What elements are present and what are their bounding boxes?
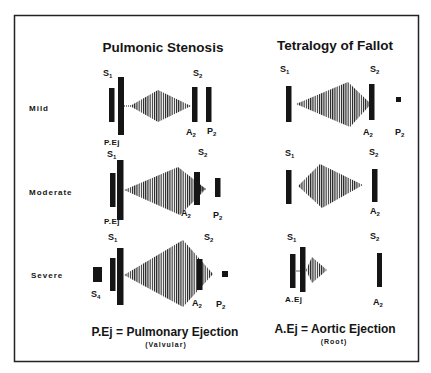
mild-pulmonic-stenosis: S1 S2 P.Ej A2 P2: [103, 68, 217, 147]
a2-bar: [194, 172, 200, 205]
title-tetralogy-of-fallot: Tetralogy of Fallot: [277, 38, 394, 53]
phonocardiogram-diagram: Pulmonic Stenosis Tetralogy of Fallot Mi…: [0, 0, 431, 373]
severe-pulmonic-stenosis: S1 S2 S4 A2 P2: [91, 232, 228, 310]
svg-text:S1: S1: [107, 149, 117, 160]
legend: P.Ej = Pulmonary Ejection (Valvular) A.E…: [92, 322, 396, 349]
legend-valvular-note: (Valvular): [145, 341, 187, 349]
title-pulmonic-stenosis: Pulmonic Stenosis: [103, 40, 224, 55]
svg-text:S4: S4: [91, 289, 101, 300]
s4-box: [93, 267, 102, 282]
severe-tetralogy-of-fallot: S1 S2 A.Ej A2: [285, 231, 384, 308]
s1-bar: [110, 173, 116, 207]
crescendo-murmur: [296, 82, 371, 127]
svg-text:S2: S2: [369, 147, 379, 158]
svg-text:P2: P2: [207, 126, 217, 137]
s1-bar: [110, 258, 116, 291]
pulmonary-ejection-bar: [117, 160, 124, 220]
ejection-murmur-small: [306, 257, 327, 283]
svg-text:P2: P2: [213, 210, 223, 221]
svg-text:S2: S2: [198, 147, 208, 158]
a2-bar: [372, 169, 378, 202]
svg-text:S2: S2: [193, 68, 203, 79]
svg-text:A2: A2: [363, 127, 374, 138]
row-label-severe: Severe: [31, 271, 63, 280]
p2-dot: [222, 271, 228, 277]
p2-dot: [396, 97, 401, 102]
ejection-murmur-diamond: [298, 164, 363, 208]
svg-text:A2: A2: [181, 208, 192, 219]
svg-text:A2: A2: [192, 298, 203, 309]
s1-bar: [286, 170, 292, 204]
a2-bar: [197, 259, 203, 290]
svg-text:P2: P2: [395, 127, 405, 138]
s1-bar: [109, 88, 115, 122]
svg-text:P.Ej: P.Ej: [104, 138, 120, 147]
svg-text:A2: A2: [370, 206, 381, 217]
svg-text:A2: A2: [186, 127, 197, 138]
row-label-mild: Mild: [29, 104, 49, 113]
p2-bar: [215, 178, 221, 197]
mild-tetralogy-of-fallot: S1 S2 A2 P2: [280, 64, 405, 138]
ejection-murmur-diamond: [130, 90, 191, 122]
svg-text:S1: S1: [285, 148, 295, 159]
ejection-murmur-diamond: [124, 167, 206, 215]
s1-bar: [290, 254, 296, 288]
svg-text:S1: S1: [108, 232, 118, 243]
svg-text:A.Ej: A.Ej: [285, 295, 303, 304]
svg-text:S1: S1: [280, 64, 290, 75]
p2-bar: [206, 87, 212, 122]
svg-text:S1: S1: [103, 68, 113, 79]
svg-text:A2: A2: [373, 297, 384, 308]
s1-bar: [286, 86, 292, 122]
legend-pulmonary-ejection: P.Ej = Pulmonary Ejection: [92, 325, 239, 339]
a2-bar: [192, 87, 198, 122]
svg-text:P.Ej: P.Ej: [104, 217, 120, 226]
legend-aortic-ejection: A.Ej = Aortic Ejection: [274, 322, 395, 336]
a2-bar: [377, 253, 382, 287]
row-label-moderate: Moderate: [29, 188, 73, 197]
moderate-tetralogy-of-fallot: S1 S2 A2: [285, 147, 381, 217]
a2-bar: [369, 84, 375, 120]
svg-text:S2: S2: [370, 64, 380, 75]
aortic-ejection-bar: [300, 247, 306, 292]
svg-text:P2: P2: [216, 299, 226, 310]
moderate-pulmonic-stenosis: S1 S2 P.Ej A2 P2: [104, 147, 223, 226]
svg-text:S2: S2: [370, 231, 380, 242]
pulmonary-ejection-bar: [117, 248, 124, 305]
pulmonary-ejection-bar: [118, 77, 124, 135]
legend-root-note: (Root): [321, 338, 348, 346]
svg-text:S2: S2: [204, 232, 214, 243]
svg-text:S1: S1: [287, 232, 297, 243]
